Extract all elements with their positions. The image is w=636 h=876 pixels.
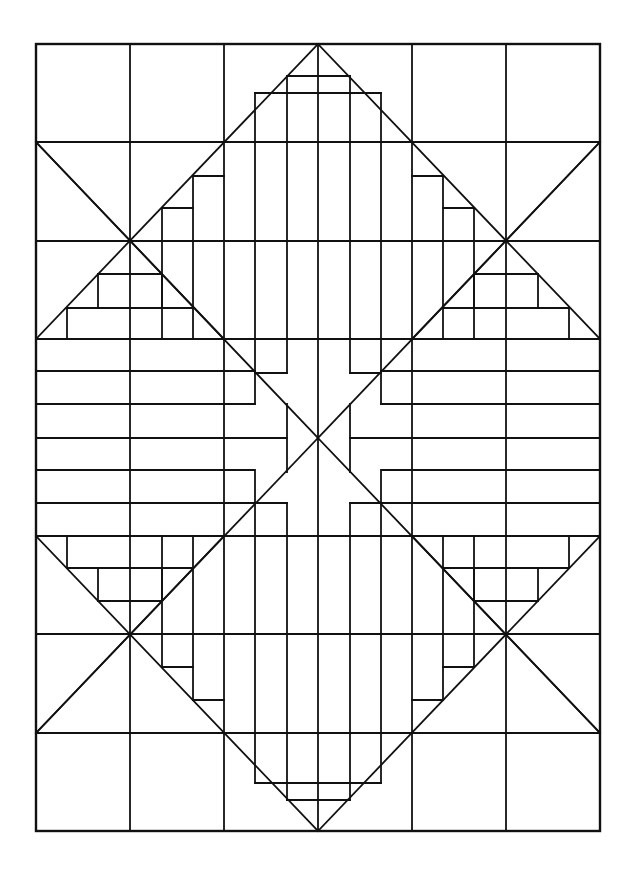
diagonal-line xyxy=(318,536,600,831)
diagonal-line xyxy=(318,44,600,339)
diagonal-line xyxy=(36,536,318,831)
geometric-line-drawing xyxy=(0,0,636,876)
diagonal-line xyxy=(36,44,318,339)
